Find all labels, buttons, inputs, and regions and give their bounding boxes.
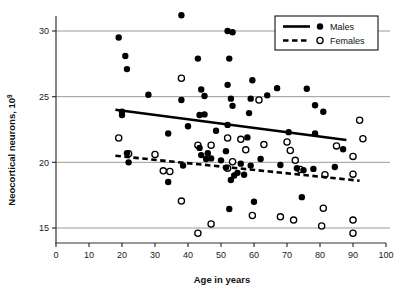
x-axis-tick-label: 70 <box>282 250 292 260</box>
legend-marker-open-circle <box>317 37 323 43</box>
data-point-female <box>350 153 356 159</box>
data-point-female <box>287 147 293 153</box>
data-point-male <box>185 123 191 129</box>
data-point-female <box>291 217 297 223</box>
data-point-male <box>274 85 280 91</box>
y-axis-tick-label: 25 <box>39 92 49 102</box>
data-point-male <box>300 167 306 173</box>
data-point-female <box>249 212 255 218</box>
data-point-male <box>277 162 283 168</box>
data-point-male <box>124 150 130 156</box>
data-point-male <box>122 53 128 59</box>
x-axis-tick-label: 0 <box>53 250 58 260</box>
y-axis-tick-label: 30 <box>39 26 49 36</box>
data-point-female <box>284 139 290 145</box>
legend-label: Males <box>330 22 355 32</box>
data-point-female <box>116 135 122 141</box>
data-point-male <box>198 86 204 92</box>
x-axis-tick-label: 40 <box>183 250 193 260</box>
data-point-male <box>249 77 255 83</box>
y-axis-tick-label: 20 <box>39 158 49 168</box>
scatter-chart: 15202530 0102030405060708090100 MalesFem… <box>0 0 408 302</box>
data-point-male <box>246 110 252 116</box>
data-point-female <box>178 75 184 81</box>
x-axis-tick-label: 80 <box>315 250 325 260</box>
data-point-female <box>208 142 214 148</box>
data-point-female <box>261 142 267 148</box>
y-axis-title: Neocortical neurons, 109 <box>6 94 17 206</box>
x-axis-title: Age in years <box>194 274 251 285</box>
data-point-male <box>294 165 300 171</box>
data-point-male <box>116 34 122 40</box>
data-point-female <box>160 168 166 174</box>
data-point-female <box>229 159 235 165</box>
data-point-female <box>178 198 184 204</box>
data-point-male <box>299 194 305 200</box>
data-point-male <box>178 12 184 18</box>
data-point-female <box>350 230 356 236</box>
x-axis-tick-label: 50 <box>216 250 226 260</box>
x-axis-tick-label: 90 <box>348 250 358 260</box>
data-point-male <box>310 166 316 172</box>
data-point-female <box>256 97 262 103</box>
data-point-male <box>228 95 234 101</box>
data-point-female <box>277 214 283 220</box>
data-point-male <box>304 86 310 92</box>
data-point-female <box>320 205 326 211</box>
data-point-male <box>224 82 230 88</box>
data-point-male <box>125 159 131 165</box>
data-point-male <box>229 29 235 35</box>
data-point-male <box>196 145 202 151</box>
data-point-female <box>319 223 325 229</box>
data-point-male <box>201 111 207 117</box>
data-point-female <box>238 136 244 142</box>
data-point-male <box>178 97 184 103</box>
data-point-female <box>167 168 173 174</box>
data-point-male <box>218 157 224 163</box>
data-point-female <box>195 230 201 236</box>
data-point-male <box>248 162 254 168</box>
y-axis-tick-label: 15 <box>39 223 49 233</box>
data-point-male <box>165 179 171 185</box>
data-point-male <box>257 156 263 162</box>
data-point-male <box>244 134 250 140</box>
chart-legend: MalesFemales <box>275 16 378 50</box>
data-point-female <box>225 135 231 141</box>
chart-canvas: 15202530 0102030405060708090100 MalesFem… <box>0 0 408 302</box>
data-point-male <box>320 109 326 115</box>
data-point-male <box>264 92 270 98</box>
data-point-male <box>223 148 229 154</box>
data-point-female <box>292 157 298 163</box>
data-point-male <box>213 128 219 134</box>
data-point-male <box>226 206 232 212</box>
data-point-male <box>195 55 201 61</box>
data-point-female <box>208 221 214 227</box>
x-axis-tick-label: 30 <box>150 250 160 260</box>
data-point-female <box>243 147 249 153</box>
data-point-male <box>226 55 232 61</box>
data-point-male <box>234 170 240 176</box>
x-axis-tick-label: 60 <box>249 250 259 260</box>
data-point-female <box>357 117 363 123</box>
data-point-male <box>119 112 125 118</box>
data-point-female <box>333 143 339 149</box>
data-point-male <box>145 91 151 97</box>
data-point-male <box>229 103 235 109</box>
data-point-male <box>165 130 171 136</box>
data-point-male <box>251 199 257 205</box>
data-point-female <box>360 136 366 142</box>
data-point-male <box>208 155 214 161</box>
x-axis-tick-label: 100 <box>378 250 393 260</box>
data-point-female <box>152 151 158 157</box>
data-point-male <box>312 102 318 108</box>
data-point-male <box>248 95 254 101</box>
data-point-male <box>124 66 130 72</box>
y-axis-title-group: Neocortical neurons, 109 <box>6 94 17 206</box>
data-point-male <box>238 160 244 166</box>
legend-marker-filled-circle <box>317 23 323 29</box>
x-axis-tick-label: 20 <box>117 250 127 260</box>
data-point-female <box>350 171 356 177</box>
legend-label: Females <box>330 36 365 46</box>
data-point-male <box>201 93 207 99</box>
data-point-female <box>350 217 356 223</box>
